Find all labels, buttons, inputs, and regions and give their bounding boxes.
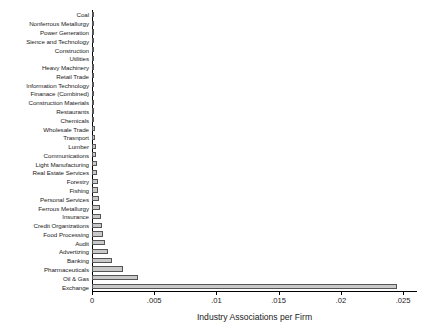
bar-row: Exchange bbox=[92, 284, 413, 289]
bar-row: Heavy Machinery bbox=[92, 64, 413, 69]
bar-category-label: Food Processing bbox=[43, 230, 89, 237]
bar bbox=[92, 73, 94, 78]
x-axis-line bbox=[92, 291, 417, 292]
bar bbox=[92, 135, 95, 140]
bar-category-label: Nonferrous Metallurgy bbox=[29, 20, 89, 27]
bar bbox=[92, 223, 102, 228]
x-axis-tick-label: .025 bbox=[396, 296, 411, 305]
bar-row: Oil & Gas bbox=[92, 275, 413, 280]
bar-category-label: Credit Organizations bbox=[34, 222, 89, 229]
x-axis-tick-label: .02 bbox=[336, 296, 347, 305]
bar-category-label: Restaurants bbox=[56, 107, 89, 114]
bar-row: Personal Services bbox=[92, 196, 413, 201]
bar-row: Ferrous Metallurgy bbox=[92, 205, 413, 210]
bar-category-label: Power Generation bbox=[40, 28, 89, 35]
bar-row: Communications bbox=[92, 152, 413, 157]
bar-category-label: Fishing bbox=[69, 187, 89, 194]
bar-category-label: Personal Services bbox=[40, 195, 89, 202]
bar-row: Banking bbox=[92, 258, 413, 263]
bar-category-label: Ferrous Metallurgy bbox=[38, 204, 89, 211]
horizontal-bar-chart: CoalNonferrous MetallurgyPower Generatio… bbox=[0, 0, 439, 334]
bar-category-label: Trasnport bbox=[63, 134, 89, 141]
bar-row: Forestry bbox=[92, 179, 413, 184]
bar bbox=[92, 161, 97, 166]
bar bbox=[92, 126, 95, 131]
bar-category-label: Lumber bbox=[68, 143, 89, 150]
x-axis-tick bbox=[279, 291, 280, 295]
bar bbox=[92, 249, 108, 254]
bar bbox=[92, 100, 94, 105]
bar-row: Fishing bbox=[92, 187, 413, 192]
bar-category-label: Real Estate Services bbox=[33, 169, 89, 176]
bar-row: Chemicals bbox=[92, 117, 413, 122]
bar-category-label: Information Technology bbox=[26, 81, 89, 88]
bar bbox=[92, 38, 94, 43]
bar-category-label: Communications bbox=[44, 151, 89, 158]
bar bbox=[92, 64, 94, 69]
bar-category-label: Finanace (Combined) bbox=[30, 90, 89, 97]
bar-row: Utilities bbox=[92, 56, 413, 61]
bar-category-label: Insurance bbox=[62, 213, 89, 220]
bar bbox=[92, 152, 96, 157]
x-axis-tick bbox=[92, 291, 93, 295]
bar-category-label: Forestry bbox=[67, 178, 89, 185]
bar-row: Nonferrous Metallurgy bbox=[92, 21, 413, 26]
bar bbox=[92, 47, 94, 52]
x-axis-tick-label: .005 bbox=[147, 296, 162, 305]
bar-category-label: Exchange bbox=[62, 283, 89, 290]
bar-row: Information Technology bbox=[92, 82, 413, 87]
bar bbox=[92, 117, 94, 122]
bar-category-label: Construction bbox=[55, 46, 89, 53]
bar-row: Food Processing bbox=[92, 231, 413, 236]
x-axis-tick bbox=[341, 291, 342, 295]
bar-category-label: Construction Materials bbox=[29, 99, 89, 106]
bar-category-label: Advertizing bbox=[59, 248, 89, 255]
bar-category-label: Retail Trade bbox=[56, 72, 89, 79]
bar bbox=[92, 170, 97, 175]
bar-row: Lumber bbox=[92, 144, 413, 149]
bar-row: Credit Organizations bbox=[92, 223, 413, 228]
bar-category-label: Audit bbox=[75, 239, 89, 246]
bar-category-label: Oil & Gas bbox=[63, 274, 89, 281]
plot-area: CoalNonferrous MetallurgyPower Generatio… bbox=[92, 10, 413, 291]
bar-row: Coal bbox=[92, 12, 413, 17]
bar bbox=[92, 144, 96, 149]
x-axis-tick bbox=[216, 291, 217, 295]
bar-row: Wholesale Trade bbox=[92, 126, 413, 131]
bar-row: Real Estate Services bbox=[92, 170, 413, 175]
bar-row: Trasnport bbox=[92, 135, 413, 140]
bar bbox=[92, 187, 98, 192]
x-axis-tick bbox=[403, 291, 404, 295]
bar-category-label: Banking bbox=[67, 257, 89, 264]
x-axis-title: Industry Associations per Firm bbox=[92, 312, 417, 322]
x-axis-tick-label: .01 bbox=[211, 296, 222, 305]
bar bbox=[92, 179, 98, 184]
bar-row: Construction bbox=[92, 47, 413, 52]
bar-category-label: Utilities bbox=[70, 55, 90, 62]
bar-row: Advertizing bbox=[92, 249, 413, 254]
bar-row: Power Generation bbox=[92, 29, 413, 34]
bar-row: Sience and Technology bbox=[92, 38, 413, 43]
bar-category-label: Chemicals bbox=[61, 116, 89, 123]
bar-category-label: Sience and Technology bbox=[26, 37, 89, 44]
bar-category-label: Heavy Machinery bbox=[42, 64, 89, 71]
bar-row: Light Manufacturing bbox=[92, 161, 413, 166]
bar-row: Retail Trade bbox=[92, 73, 413, 78]
bar bbox=[92, 240, 105, 245]
bar bbox=[92, 205, 100, 210]
bar bbox=[92, 214, 101, 219]
x-axis-tick bbox=[154, 291, 155, 295]
bar-category-label: Light Manufacturing bbox=[36, 160, 89, 167]
bar bbox=[92, 266, 123, 271]
x-axis-tick-label: 0 bbox=[90, 296, 94, 305]
bar-rows-container: CoalNonferrous MetallurgyPower Generatio… bbox=[92, 10, 413, 291]
bar-row: Insurance bbox=[92, 214, 413, 219]
bar bbox=[92, 196, 99, 201]
bar-row: Finanace (Combined) bbox=[92, 91, 413, 96]
bar bbox=[92, 56, 94, 61]
bar-category-label: Pharmaceuticals bbox=[44, 266, 89, 273]
bar-row: Construction Materials bbox=[92, 100, 413, 105]
bar bbox=[92, 82, 94, 87]
bar bbox=[92, 284, 397, 289]
x-axis-tick-label: .015 bbox=[271, 296, 286, 305]
